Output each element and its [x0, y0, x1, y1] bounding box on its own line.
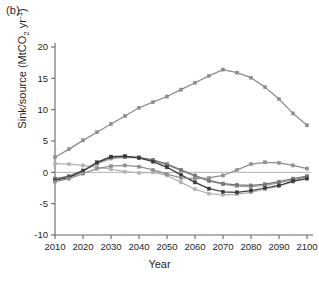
y-tick-label: 10 — [37, 104, 48, 115]
y-axis-label-sup: -1 — [15, 12, 24, 19]
x-axis-label: Year — [0, 258, 319, 270]
y-axis-label-suffix: ) — [16, 8, 28, 12]
y-tick-label: 5 — [43, 135, 48, 146]
x-tick-label: 2080 — [240, 241, 261, 252]
y-tick-label: 20 — [37, 41, 48, 52]
x-tick-label: 2010 — [44, 241, 65, 252]
x-tick-label: 2020 — [72, 241, 93, 252]
x-tick-label: 2070 — [212, 241, 233, 252]
line-chart-plot: -10-505101520201020202030204020502060207… — [0, 0, 319, 281]
x-tick-label: 2040 — [128, 241, 149, 252]
x-tick-label: 2100 — [296, 241, 317, 252]
series-layer — [53, 68, 308, 197]
y-tick-label: 15 — [37, 73, 48, 84]
y-tick-label: -5 — [40, 198, 48, 209]
x-tick-label: 2060 — [184, 241, 205, 252]
y-axis-label-prefix: Sink/source (MtCO — [16, 36, 28, 129]
y-tick-label: 0 — [43, 167, 48, 178]
x-tick-label: 2090 — [268, 241, 289, 252]
y-axis-label-sub: 2 — [22, 31, 31, 35]
x-tick-label: 2050 — [156, 241, 177, 252]
x-tick-label: 2030 — [100, 241, 121, 252]
chart-series — [53, 68, 308, 159]
figure-panel-b: (b) Sink/source (MtCO2 yr-1) Year -10-50… — [0, 0, 319, 281]
y-tick-label: -10 — [34, 229, 48, 240]
axis-layer — [51, 43, 313, 239]
tick-label-layer: -10-505101520201020202030204020502060207… — [34, 41, 317, 252]
y-axis-label-mid: yr — [16, 19, 28, 31]
y-axis-label: Sink/source (MtCO2 yr-1) — [15, 0, 32, 163]
